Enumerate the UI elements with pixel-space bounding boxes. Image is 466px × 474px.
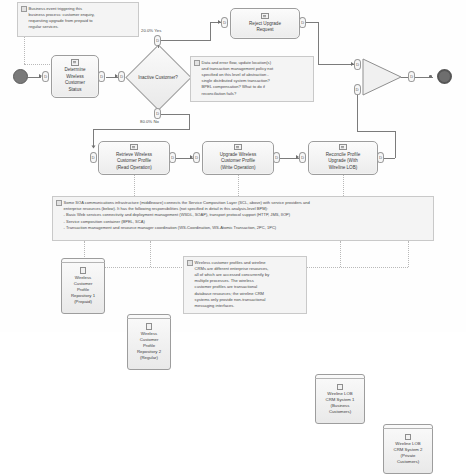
gateway-yes-label: 20.0% Yes [141,28,161,33]
port-reject-in [221,17,228,28]
assoc-mw-to-ds4 [408,241,409,267]
task-upgrade-wireless-customer-profile[interactable]: Upgrade Wireless Customer Profile (Write… [202,141,274,175]
task-reconcile-profile-upgrade[interactable]: Reconcile Profile Upgrade (With Wireline… [308,141,378,175]
annotation-note-4: Wireless customer profiles and wireline … [183,256,307,314]
port-reconcile-in [299,152,306,163]
flow-gateway-no-v [189,114,190,130]
flow-gateway-yes-h [161,40,210,41]
annotation-note-2: Data and error flow, update location(s) … [190,56,314,102]
port-merge-out [408,71,415,82]
flow-endpoint-dot [429,75,432,78]
assoc-mw-to-ds3 [340,241,341,267]
task-upgrade-label: Upgrade Wireless Customer Profile (Write… [220,152,257,172]
assoc-retrieve-to-mw [134,175,135,196]
datastore-3-label: Wireline LOB CRM System 1 (Business Cust… [326,391,355,415]
port-gateway-in [118,71,125,82]
datastore-2-label: Wireless Customer Profile Repository 2 (… [137,331,161,361]
datastore-wireline-crm-system-1[interactable]: Wireline LOB CRM System 1 (Business Cust… [315,374,365,424]
task-reject-upgrade-request[interactable]: Reject Upgrade Request [230,8,300,39]
start-event[interactable] [13,69,28,84]
merge-gateway-triangle[interactable] [362,58,402,96]
flow-reconcile-out-h [384,158,395,159]
flow-reject-to-merge [318,64,354,65]
task-determine-wireless-customer-status[interactable]: Determine Wireless Customer Status [51,55,99,98]
task-determine-label: Determine Wireless Customer Status [64,67,85,94]
task-type-icon [261,13,268,19]
gateway-no-label: 80.0% No [140,119,159,124]
annotation-note-2-text: Data and error flow, update location(s) … [202,60,310,97]
flow-reconcile-to-merge [357,93,358,131]
annotation-note-1: Business event triggering this business … [17,2,139,37]
flow-arrow [91,146,95,149]
datastore-icon [405,434,410,440]
task-retrieve-label: Retrieve Wireless Customer Profile (Read… [116,152,152,172]
port-retrieve-in [90,152,97,163]
flow-reconcile-up [395,131,396,158]
note-marker-icon [187,260,193,266]
port-reject-out [299,17,306,28]
datastore-wireless-profile-repository-1[interactable]: Wireless Customer Profile Repository 1 (… [61,258,105,314]
flow-reject-down [318,22,319,64]
annotation-note-1-text: Business event triggering this business … [29,6,135,31]
port-determine-in [42,71,49,82]
datastore-icon [80,267,85,273]
task-reject-label: Reject Upgrade Request [249,21,281,34]
assoc-reconcile-to-mw [343,175,344,196]
datastore-icon [337,384,342,390]
annotation-note-4-text: Wireless customer profiles and wireline … [195,260,303,310]
note1-association [24,37,25,64]
assoc-upgrade-to-mw [238,175,239,196]
port-gateway-no [154,108,161,119]
flow-gateway-yes-v [158,45,159,48]
task-reconcile-label: Reconcile Profile Upgrade (With Wireline… [326,152,360,172]
port-determine-out [98,71,105,82]
annotation-note-3-text: Some SOA communications infrastructure (… [64,200,430,232]
datastore-wireless-profile-repository-2[interactable]: Wireless Customer Profile Repository 2 (… [127,314,171,370]
task-type-icon [71,59,78,65]
task-type-icon [130,144,137,150]
task-retrieve-wireless-customer-profile[interactable]: Retrieve Wireless Customer Profile (Read… [98,141,170,175]
flow-no-to-left [93,129,189,130]
datastore-1-label: Wireless Customer Profile Repository 1 (… [71,275,95,305]
annotation-note-3: Some SOA communications infrastructure (… [52,196,434,241]
flow-no-down-left [93,129,94,147]
task-type-icon [234,144,241,150]
task-type-icon [339,144,346,150]
port-upgrade-out [273,152,280,163]
port-merge-in-top [354,59,361,70]
datastore-icon [146,323,151,329]
datastore-4-label: Wireline LOB CRM System 2 (Private Custo… [394,441,423,465]
end-event[interactable] [437,69,452,84]
flow-reconcile-back [357,131,395,132]
port-upgrade-in [193,152,200,163]
note-marker-icon [194,60,200,66]
note-marker-icon [56,200,62,206]
flow-gateway-no-h [161,114,189,115]
note-marker-icon [21,6,27,12]
port-reconcile-out [377,152,384,163]
port-merge-in-bottom [354,84,361,95]
assoc-mw-to-ds2 [150,241,151,267]
gateway-label: Inactive Customer? [138,75,178,80]
datastore-wireline-crm-system-2[interactable]: Wireline LOB CRM System 2 (Private Custo… [383,424,433,474]
gateway-inactive-customer[interactable]: Inactive Customer? [126,45,190,109]
flow-gateway-yes-up [210,22,211,41]
port-retrieve-out [169,152,176,163]
flow-reject-out-h [306,22,318,23]
